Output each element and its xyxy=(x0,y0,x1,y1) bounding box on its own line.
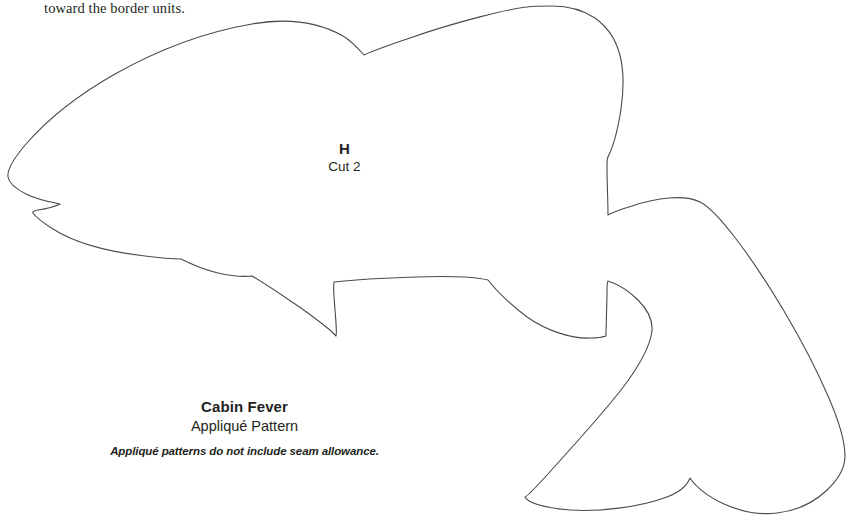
pattern-page: toward the border units. H Cut 2 Cabin F… xyxy=(0,0,850,520)
caption-seam-allowance-note: Appliqué patterns do not include seam al… xyxy=(62,444,427,459)
piece-letter: H xyxy=(277,141,412,157)
piece-cut-instruction: Cut 2 xyxy=(277,158,412,175)
pattern-piece-label: H Cut 2 xyxy=(277,141,412,175)
caption-title: Cabin Fever xyxy=(62,398,427,416)
pattern-caption: Cabin Fever Appliqué Pattern Appliqué pa… xyxy=(62,398,427,459)
caption-subtitle: Appliqué Pattern xyxy=(62,417,427,436)
